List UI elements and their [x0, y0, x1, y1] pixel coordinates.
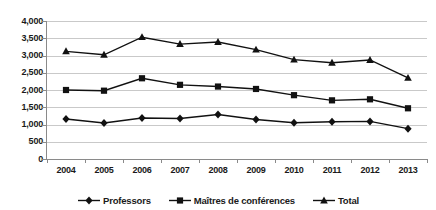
x-axis-tick-label: 2004 [56, 165, 75, 175]
y-axis-tick-label: 2,000 [21, 86, 43, 95]
y-axis-tick-label: 500 [29, 137, 43, 146]
data-point-square [253, 86, 259, 92]
x-axis-tick-label: 2010 [284, 165, 303, 175]
data-point-triangle [138, 33, 146, 40]
x-axis-tick-labels: 2004200520062007200820092010201120122013 [0, 165, 436, 179]
data-point-square [177, 82, 183, 88]
y-axis-tick [42, 90, 46, 91]
legend-key-triangle-icon [312, 195, 336, 206]
legend-item[interactable]: Maîtres de conférences [168, 195, 295, 206]
x-axis-tick [47, 159, 48, 163]
y-axis-tick-label: 3,500 [21, 34, 43, 43]
x-axis-tick-label: 2009 [246, 165, 265, 175]
data-point-square [101, 88, 107, 94]
data-point-diamond [214, 110, 221, 118]
plot-area [47, 21, 427, 159]
data-point-square [177, 197, 183, 203]
series-line [66, 37, 408, 78]
legend-key-square-icon [168, 195, 192, 206]
data-point-diamond [138, 114, 145, 122]
legend-label: Professors [103, 196, 151, 206]
data-point-square [329, 97, 335, 103]
y-axis-tick-label: 3,000 [21, 51, 43, 60]
x-axis-tick [351, 159, 352, 163]
data-point-square [215, 83, 221, 89]
x-axis-tick-label: 2006 [132, 165, 151, 175]
data-point-square [405, 105, 411, 111]
x-axis-tick [199, 159, 200, 163]
x-axis-tick-label: 2007 [170, 165, 189, 175]
x-axis-tick [427, 159, 428, 163]
x-axis-tick-label: 2012 [360, 165, 379, 175]
x-axis-tick [85, 159, 86, 163]
data-point-square [291, 92, 297, 98]
line-chart: 05001,0001,5002,0002,5003,0003,5004,000 … [0, 0, 436, 210]
data-point-diamond [85, 197, 92, 205]
data-point-triangle [62, 47, 70, 54]
data-point-diamond [404, 125, 411, 133]
y-axis-tick [42, 56, 46, 57]
y-axis-tick-label: 1,500 [21, 103, 43, 112]
data-point-diamond [62, 115, 69, 123]
x-axis-tick-label: 2008 [208, 165, 227, 175]
y-axis-tick [42, 73, 46, 74]
x-axis-tick [389, 159, 390, 163]
x-axis-tick-label: 2011 [323, 165, 342, 175]
y-axis-tick [42, 125, 46, 126]
x-axis-tick [237, 159, 238, 163]
series-line [66, 78, 408, 108]
data-point-diamond [252, 115, 259, 123]
legend-label: Total [338, 196, 359, 206]
series-line [66, 115, 408, 129]
y-axis-tick [42, 142, 46, 143]
x-axis-tick [313, 159, 314, 163]
data-point-diamond [366, 117, 373, 125]
chart-legend: ProfessorsMaîtres de conférencesTotal [0, 195, 436, 206]
y-axis-tick-label: 2,500 [21, 68, 43, 77]
y-axis-tick [42, 21, 46, 22]
x-axis-tick-label: 2013 [398, 165, 417, 175]
x-axis-tick [161, 159, 162, 163]
legend-item[interactable]: Professors [77, 195, 151, 206]
legend-item[interactable]: Total [312, 195, 359, 206]
legend-key-diamond-icon [77, 195, 101, 206]
data-point-square [139, 75, 145, 81]
y-axis-tick-label: 1,000 [21, 120, 43, 129]
x-axis-tick [275, 159, 276, 163]
data-point-diamond [176, 114, 183, 122]
data-point-triangle [366, 56, 374, 63]
x-axis-tick [123, 159, 124, 163]
legend-label: Maîtres de conférences [194, 196, 295, 206]
x-axis-tick-label: 2005 [94, 165, 113, 175]
series-layer [47, 21, 427, 159]
data-point-square [367, 96, 373, 102]
data-point-diamond [290, 119, 297, 127]
data-point-square [63, 87, 69, 93]
data-point-diamond [100, 119, 107, 127]
y-axis-tick [42, 107, 46, 108]
y-axis-tick-label: 4,000 [21, 17, 43, 26]
y-axis-tick [42, 38, 46, 39]
data-point-diamond [328, 118, 335, 126]
